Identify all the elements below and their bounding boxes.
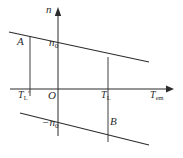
mechanical-characteristic-figure: n A n0 O TL′ TL Tem −n0 B — [0, 0, 183, 158]
neg-n0-label: −n0 — [42, 117, 58, 128]
t-em-axis-arrowhead — [166, 86, 174, 93]
t-em-axis-label: Tem — [150, 90, 163, 100]
n0-label: n0 — [49, 37, 58, 48]
t-l-label: TL — [101, 90, 110, 100]
t-l-prime-label: TL′ — [18, 90, 29, 100]
lower-characteristic-line — [20, 113, 149, 145]
n-axis-label: n — [46, 4, 52, 15]
point-b-label: B — [110, 116, 117, 127]
figure-canvas — [0, 0, 183, 158]
origin-label: O — [48, 90, 56, 101]
point-a-label: A — [17, 36, 24, 47]
n-axis-arrowhead — [55, 7, 61, 16]
